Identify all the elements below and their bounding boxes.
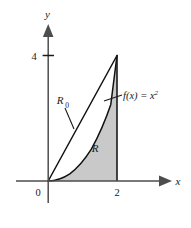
- function-label-exponent: 2: [155, 89, 159, 97]
- svg-text:f(x) = x2: f(x) = x2: [123, 89, 159, 102]
- x-axis-label: x: [175, 175, 181, 187]
- x-tick-label-2: 2: [114, 187, 119, 198]
- region-label-R0-base: R: [56, 94, 64, 106]
- math-figure-region-under-parabola: y x 4 2 0 R R 0 f(x) = x2: [0, 0, 191, 228]
- y-tick-label-4: 4: [31, 51, 37, 62]
- region-label-R: R: [91, 142, 99, 154]
- region-label-R0-subscript: 0: [65, 101, 69, 110]
- y-axis-label: y: [44, 8, 50, 20]
- origin-label: 0: [35, 187, 40, 198]
- function-label-text: f(x) = x: [123, 90, 155, 102]
- function-label: f(x) = x2: [123, 89, 159, 102]
